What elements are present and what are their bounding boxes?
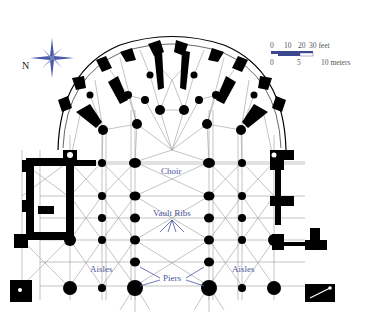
label-vault-ribs: Vault Ribs <box>153 208 191 218</box>
flying-buttresses <box>58 40 286 128</box>
label-aisles-right: Aisles <box>232 264 255 274</box>
scale-feet-0: 0 <box>270 41 274 50</box>
label-choir: Choir <box>161 166 182 176</box>
scale-meters-5: 5 <box>297 58 301 67</box>
scale-meters-10: 10 meters <box>321 58 350 67</box>
scale-feet-30: 30 feet <box>309 41 330 50</box>
label-aisles-left: Aisles <box>90 264 113 274</box>
scale-feet-10: 10 <box>284 41 292 50</box>
scale-meters-0: 0 <box>270 58 274 67</box>
right-side-chapels <box>270 150 335 302</box>
compass-north-label: N <box>22 60 29 71</box>
label-piers: Piers <box>163 273 181 283</box>
scale-bar <box>271 51 313 56</box>
scale-feet-20: 20 <box>298 41 306 50</box>
compass-rose-icon <box>30 38 74 78</box>
